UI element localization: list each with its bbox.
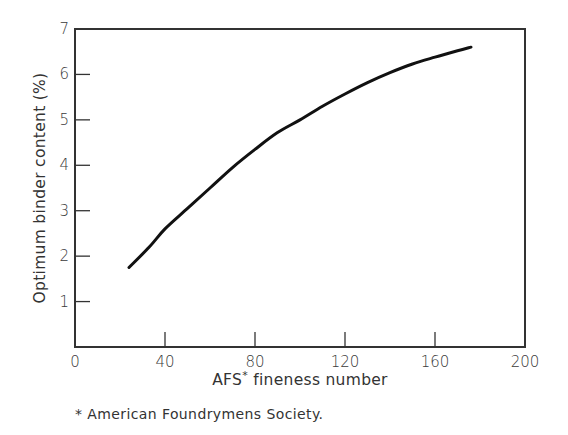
x-tick-label: 160 <box>421 353 450 371</box>
data-curve <box>129 47 471 267</box>
y-tick-label: 2 <box>59 247 69 265</box>
y-tick-label: 4 <box>59 156 69 174</box>
x-tick-label: 120 <box>331 353 360 371</box>
x-axis-title-main: AFS <box>212 371 242 389</box>
x-axis-ticks: 04080120160200 <box>70 332 539 371</box>
chart: 1234567 04080120160200 Optimum binder co… <box>0 0 568 435</box>
x-axis-title-rest: fineness number <box>248 371 388 389</box>
x-tick-label: 200 <box>511 353 540 371</box>
x-tick-label: 0 <box>70 353 80 371</box>
y-tick-label: 5 <box>59 111 69 129</box>
y-tick-label: 7 <box>59 20 69 38</box>
y-axis-title: Optimum binder content (%) <box>31 73 49 304</box>
plot-frame <box>75 29 525 347</box>
y-tick-label: 1 <box>59 293 69 311</box>
x-tick-label: 80 <box>245 353 264 371</box>
x-tick-label: 40 <box>155 353 174 371</box>
footnote: * American Foundrymens Society. <box>75 406 323 422</box>
y-tick-label: 3 <box>59 202 69 220</box>
plot-border <box>75 29 525 347</box>
y-tick-label: 6 <box>59 65 69 83</box>
x-axis-title: AFS* fineness number <box>212 369 388 389</box>
